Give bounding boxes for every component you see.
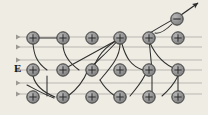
ion-positive xyxy=(114,64,126,76)
ion-positive xyxy=(86,91,98,103)
ion-positive xyxy=(143,32,155,44)
electron-negative xyxy=(171,13,183,25)
avalanche-tracks-group xyxy=(27,19,178,98)
ion-positive xyxy=(27,64,39,76)
ion-positive xyxy=(114,32,126,44)
ion-positive xyxy=(57,91,69,103)
ion-positive xyxy=(86,32,98,44)
ion-positive xyxy=(27,91,39,103)
escape-arrow xyxy=(181,3,198,15)
ion-positive xyxy=(86,64,98,76)
ion-positive xyxy=(57,64,69,76)
track-segment xyxy=(130,75,145,96)
ion-positive xyxy=(114,91,126,103)
electric-field-label: E xyxy=(14,63,21,74)
ion-positive xyxy=(27,32,39,44)
figure-canvas: E xyxy=(0,0,208,115)
avalanche-diagram-svg xyxy=(0,0,208,115)
ion-positive xyxy=(143,64,155,76)
ion-positive xyxy=(143,91,155,103)
ion-positive xyxy=(57,32,69,44)
ion-positive xyxy=(172,91,184,103)
ion-positive xyxy=(172,64,184,76)
ion-positive xyxy=(172,32,184,44)
